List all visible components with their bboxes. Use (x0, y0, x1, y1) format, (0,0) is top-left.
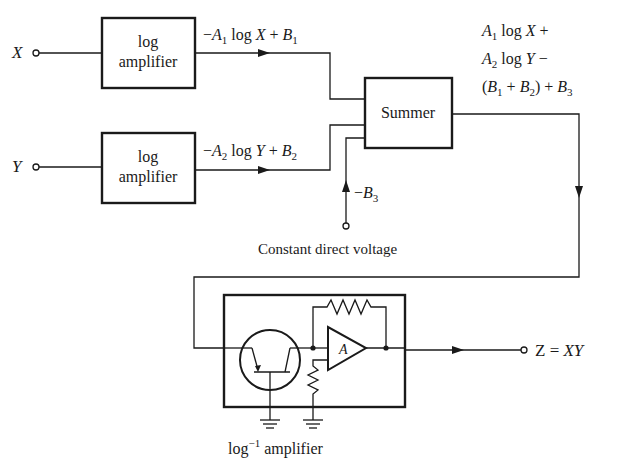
multiplier-block-diagram: X log amplifier −A1 log X + B1 Y log amp… (0, 0, 620, 471)
arrow-right-icon (258, 49, 270, 57)
output-equation: Z = XY (535, 341, 585, 360)
ground-icon (303, 420, 323, 428)
signal-log-y: −A2 log Y + B2 (195, 125, 365, 174)
antilog-amplifier: A log−1 amplifier (224, 295, 405, 458)
log-x-output-expression: −A1 log X + B1 (203, 26, 298, 46)
constant-voltage-label: Constant direct voltage (258, 241, 397, 257)
ground-icon (260, 420, 280, 428)
signal-log-x: −A1 log X + B1 (195, 26, 365, 99)
input-y-label: Y (12, 157, 23, 176)
arrow-down-icon (575, 186, 583, 198)
log-amplifier-y: log amplifier (102, 133, 195, 203)
log-amp-y-line2: amplifier (119, 168, 178, 186)
summer-out-line1: A1 log X + (481, 22, 549, 42)
input-y: Y (12, 157, 102, 176)
constant-expression: −B3 (354, 184, 379, 204)
constant-terminal-icon (343, 223, 349, 229)
summer-label: Summer (381, 104, 436, 121)
opamp-gain-label: A (338, 342, 348, 357)
log-y-output-expression: −A2 log Y + B2 (203, 142, 297, 162)
input-y-terminal-icon (33, 164, 39, 170)
input-x-label: X (11, 43, 23, 62)
output-terminal-icon (521, 347, 527, 353)
summer-block: Summer (365, 78, 452, 148)
arrow-up-icon (342, 180, 350, 192)
arrow-right-icon (452, 346, 464, 354)
input-x: X (11, 43, 102, 62)
log-amplifier-x: log amplifier (102, 18, 195, 88)
log-amp-x-line1: log (138, 33, 158, 51)
log-amp-x-line2: amplifier (119, 53, 178, 71)
output-z: Z = XY (405, 341, 585, 360)
antilog-amplifier-label: log−1 amplifier (228, 437, 323, 458)
antilog-amplifier-box (224, 295, 405, 407)
input-x-terminal-icon (33, 50, 39, 56)
summer-out-line3: (B1 + B2) + B3 (482, 78, 573, 98)
wire-log-x-to-summer (195, 53, 365, 99)
arrow-right-icon (258, 166, 270, 174)
summer-output-expression: A1 log X + A2 log Y − (B1 + B2) + B3 (481, 22, 573, 98)
wire-constant-to-summer (346, 138, 365, 223)
summer-out-line2: A2 log Y − (481, 50, 548, 70)
log-amp-y-line1: log (138, 148, 158, 166)
